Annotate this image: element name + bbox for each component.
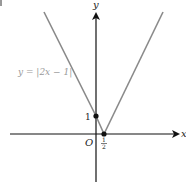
y-axis-label: y: [92, 0, 99, 10]
x-intercept-numerator: 1: [102, 136, 106, 143]
x-intercept-denominator: 2: [102, 143, 106, 150]
y-intercept-point: [93, 113, 98, 118]
curve-right-branch: [104, 12, 163, 134]
graph-canvas: y x O 1 1 2 y = |2x − 1|: [0, 0, 186, 183]
origin-label: O: [85, 137, 93, 148]
x-axis-label: x: [181, 128, 186, 139]
function-equation-label: y = |2x − 1|: [17, 67, 72, 78]
y-intercept-label: 1: [85, 112, 91, 122]
